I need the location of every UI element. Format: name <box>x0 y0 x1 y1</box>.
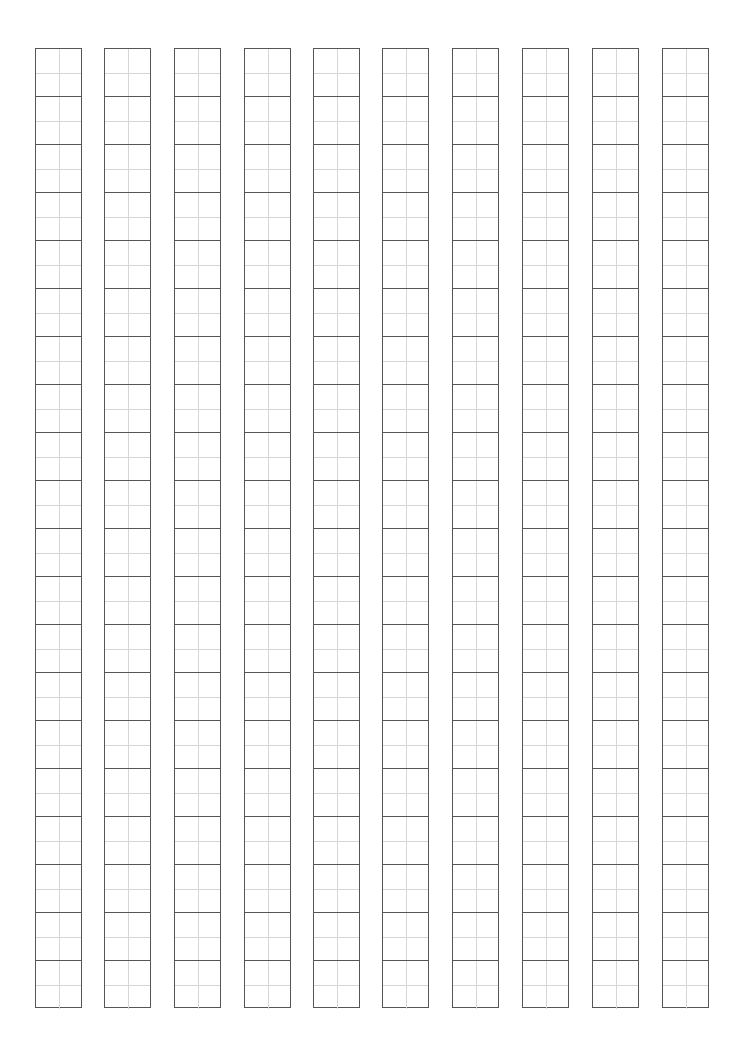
horizontal-guide-line <box>36 601 81 602</box>
horizontal-guide-line <box>245 745 290 746</box>
horizontal-guide-line <box>523 649 568 650</box>
horizontal-guide-line <box>245 601 290 602</box>
horizontal-guide-line <box>245 649 290 650</box>
grid-cell <box>383 865 428 913</box>
grid-cell <box>36 913 81 961</box>
horizontal-guide-line <box>105 265 150 266</box>
horizontal-guide-line <box>105 457 150 458</box>
grid-cell <box>523 481 568 529</box>
horizontal-guide-line <box>593 649 638 650</box>
horizontal-guide-line <box>523 889 568 890</box>
horizontal-guide-line <box>663 217 708 218</box>
horizontal-guide-line <box>105 73 150 74</box>
grid-column-5 <box>313 48 360 1008</box>
horizontal-guide-line <box>175 985 220 986</box>
horizontal-guide-line <box>593 409 638 410</box>
grid-cell <box>663 289 708 337</box>
horizontal-guide-line <box>663 121 708 122</box>
horizontal-guide-line <box>314 697 359 698</box>
horizontal-guide-line <box>314 889 359 890</box>
grid-cell <box>175 433 220 481</box>
horizontal-guide-line <box>105 409 150 410</box>
horizontal-guide-line <box>314 649 359 650</box>
grid-cell <box>523 961 568 1009</box>
horizontal-guide-line <box>245 937 290 938</box>
horizontal-guide-line <box>453 793 498 794</box>
horizontal-guide-line <box>453 697 498 698</box>
horizontal-guide-line <box>453 505 498 506</box>
grid-cell <box>593 337 638 385</box>
grid-cell <box>453 337 498 385</box>
grid-cell <box>245 577 290 625</box>
horizontal-guide-line <box>245 889 290 890</box>
horizontal-guide-line <box>314 217 359 218</box>
horizontal-guide-line <box>105 937 150 938</box>
horizontal-guide-line <box>663 601 708 602</box>
grid-cell <box>663 97 708 145</box>
horizontal-guide-line <box>453 169 498 170</box>
grid-cell <box>314 193 359 241</box>
horizontal-guide-line <box>175 169 220 170</box>
horizontal-guide-line <box>663 553 708 554</box>
grid-cell <box>36 961 81 1009</box>
grid-cell <box>245 625 290 673</box>
grid-cell <box>593 577 638 625</box>
horizontal-guide-line <box>383 793 428 794</box>
horizontal-guide-line <box>523 361 568 362</box>
horizontal-guide-line <box>593 73 638 74</box>
horizontal-guide-line <box>314 265 359 266</box>
horizontal-guide-line <box>175 697 220 698</box>
horizontal-guide-line <box>453 73 498 74</box>
grid-cell <box>593 481 638 529</box>
horizontal-guide-line <box>314 73 359 74</box>
grid-cell <box>523 145 568 193</box>
horizontal-guide-line <box>245 409 290 410</box>
grid-cell <box>314 385 359 433</box>
grid-cell <box>523 241 568 289</box>
horizontal-guide-line <box>663 745 708 746</box>
grid-cell <box>175 913 220 961</box>
horizontal-guide-line <box>663 361 708 362</box>
grid-cell <box>523 289 568 337</box>
grid-column-3 <box>174 48 221 1008</box>
grid-cell <box>383 529 428 577</box>
horizontal-guide-line <box>593 313 638 314</box>
horizontal-guide-line <box>523 217 568 218</box>
horizontal-guide-line <box>453 889 498 890</box>
horizontal-guide-line <box>453 745 498 746</box>
horizontal-guide-line <box>453 937 498 938</box>
grid-cell <box>663 769 708 817</box>
grid-cell <box>453 625 498 673</box>
grid-cell <box>36 49 81 97</box>
grid-cell <box>453 49 498 97</box>
grid-cell <box>453 721 498 769</box>
grid-cell <box>593 433 638 481</box>
grid-column-10 <box>662 48 709 1008</box>
grid-cell <box>593 49 638 97</box>
horizontal-guide-line <box>36 121 81 122</box>
grid-cell <box>383 721 428 769</box>
horizontal-guide-line <box>314 457 359 458</box>
grid-cell <box>383 769 428 817</box>
horizontal-guide-line <box>36 313 81 314</box>
grid-cell <box>453 241 498 289</box>
horizontal-guide-line <box>663 793 708 794</box>
horizontal-guide-line <box>36 889 81 890</box>
grid-cell <box>105 241 150 289</box>
grid-column-2 <box>104 48 151 1008</box>
horizontal-guide-line <box>105 841 150 842</box>
horizontal-guide-line <box>314 313 359 314</box>
grid-cell <box>175 145 220 193</box>
horizontal-guide-line <box>383 601 428 602</box>
horizontal-guide-line <box>593 361 638 362</box>
horizontal-guide-line <box>453 409 498 410</box>
grid-cell <box>523 529 568 577</box>
grid-cell <box>105 865 150 913</box>
horizontal-guide-line <box>383 889 428 890</box>
horizontal-guide-line <box>36 793 81 794</box>
horizontal-guide-line <box>105 553 150 554</box>
grid-cell <box>314 289 359 337</box>
grid-cell <box>105 97 150 145</box>
horizontal-guide-line <box>593 121 638 122</box>
horizontal-guide-line <box>175 601 220 602</box>
